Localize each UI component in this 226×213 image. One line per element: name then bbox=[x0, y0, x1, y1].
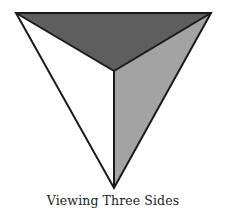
pyramid-diagram bbox=[0, 0, 226, 213]
pyramid-figure bbox=[0, 0, 226, 213]
figure-caption: Viewing Three Sides bbox=[0, 193, 226, 208]
